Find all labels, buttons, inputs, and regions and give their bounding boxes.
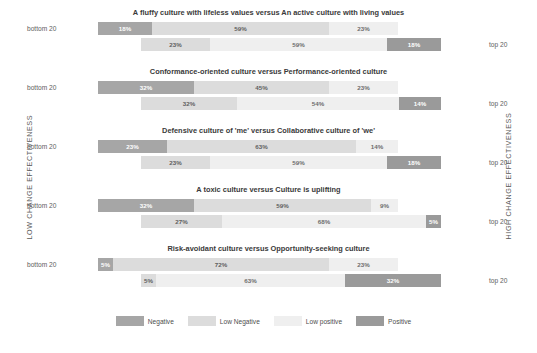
group-bars: 32%45%23%32%54%14% <box>63 81 476 113</box>
legend-item: Negative <box>116 316 174 326</box>
bar-row: 32%59%9% <box>63 199 476 212</box>
legend-label: Negative <box>148 318 174 325</box>
bottom-group-label: bottom 20 <box>27 261 56 268</box>
bottom-group-label: bottom 20 <box>27 202 56 209</box>
bar-row: 5%72%23% <box>63 258 476 271</box>
bar-row: 32%54%14% <box>63 97 476 110</box>
bar-segment: 18% <box>98 22 152 35</box>
bar-segment-label: 59% <box>292 41 304 48</box>
bar-segment: 9% <box>371 199 398 212</box>
legend-item: Low positive <box>274 316 342 326</box>
legend-swatch <box>188 316 216 326</box>
bar-segment: 59% <box>152 22 329 35</box>
bar-segment-label: 9% <box>380 202 389 209</box>
bar-segment: 63% <box>167 140 356 153</box>
bar-segment-label: 14% <box>414 100 426 107</box>
bar-row: 23%59%18% <box>63 38 476 51</box>
bar-segment: 32% <box>141 97 237 110</box>
bar-segment: 5% <box>98 258 113 271</box>
bar-segment: 32% <box>98 199 194 212</box>
bottom-group-label: bottom 20 <box>27 84 56 91</box>
legend-label: Positive <box>388 318 411 325</box>
group-title: A fluffy culture with lifeless values ve… <box>0 8 537 17</box>
bar-segment-label: 68% <box>318 218 330 225</box>
bar-segment: 72% <box>113 258 329 271</box>
bar-segment: 32% <box>345 274 441 287</box>
bar-segment: 59% <box>210 156 387 169</box>
bar-segment-label: 23% <box>169 41 181 48</box>
bar-segment-label: 18% <box>408 41 420 48</box>
bottom-group-label: bottom 20 <box>27 25 56 32</box>
bar-segment: 45% <box>194 81 329 94</box>
chart-legend: NegativeLow NegativeLow positivePositive <box>0 316 537 326</box>
bar-segment: 14% <box>356 140 398 153</box>
top-group-label: top 20 <box>489 159 507 166</box>
group-bars: 23%63%14%23%59%18% <box>63 140 476 172</box>
chart-groups: A fluffy culture with lifeless values ve… <box>0 8 537 303</box>
bar-segment-label: 63% <box>244 277 256 284</box>
group-bars: 18%59%23%23%59%18% <box>63 22 476 54</box>
bar-segment: 23% <box>141 156 210 169</box>
bar-segment-label: 23% <box>357 25 369 32</box>
bar-segment: 23% <box>98 140 167 153</box>
bar-segment: 23% <box>141 38 210 51</box>
bar-segment-label: 45% <box>255 84 267 91</box>
legend-swatch <box>356 316 384 326</box>
bar-segment-label: 32% <box>387 277 399 284</box>
group-bars: 32%59%9%27%68%5% <box>63 199 476 231</box>
chart-group: Conformance-oriented culture versus Perf… <box>0 67 537 126</box>
bar-segment-label: 5% <box>101 261 110 268</box>
group-title: Risk-avoidant culture versus Opportunity… <box>0 244 537 253</box>
bar-row: 18%59%23% <box>63 22 476 35</box>
bottom-group-label: bottom 20 <box>27 143 56 150</box>
bar-row: 23%59%18% <box>63 156 476 169</box>
bar-segment-label: 32% <box>140 84 152 91</box>
top-group-label: top 20 <box>489 277 507 284</box>
bar-segment: 23% <box>329 258 398 271</box>
bar-row: 23%63%14% <box>63 140 476 153</box>
bar-segment: 63% <box>156 274 345 287</box>
chart-group: Risk-avoidant culture versus Opportunity… <box>0 244 537 303</box>
bar-segment: 27% <box>141 215 222 228</box>
legend-label: Low Negative <box>220 318 260 325</box>
legend-item: Low Negative <box>188 316 260 326</box>
top-group-label: top 20 <box>489 218 507 225</box>
bar-segment-label: 72% <box>215 261 227 268</box>
bar-segment-label: 23% <box>169 159 181 166</box>
bar-segment-label: 54% <box>312 100 324 107</box>
bar-segment: 18% <box>387 38 441 51</box>
group-bars: 5%72%23%5%63%32% <box>63 258 476 290</box>
chart-group: Defensive culture of 'me' versus Collabo… <box>0 126 537 185</box>
bar-segment: 59% <box>194 199 371 212</box>
bar-segment-label: 18% <box>119 25 131 32</box>
bar-segment: 23% <box>329 22 398 35</box>
bar-segment-label: 23% <box>126 143 138 150</box>
bar-segment-label: 5% <box>144 277 153 284</box>
bar-segment: 14% <box>399 97 441 110</box>
legend-label: Low positive <box>306 318 342 325</box>
legend-swatch <box>116 316 144 326</box>
bar-segment-label: 5% <box>429 218 438 225</box>
bar-segment: 68% <box>222 215 426 228</box>
group-title: Conformance-oriented culture versus Perf… <box>0 67 537 76</box>
legend-item: Positive <box>356 316 411 326</box>
bar-row: 27%68%5% <box>63 215 476 228</box>
top-group-label: top 20 <box>489 41 507 48</box>
bar-segment: 5% <box>141 274 156 287</box>
chart-root: LOW CHANGE EFFECTIVENESS HIGH CHANGE EFF… <box>0 0 537 353</box>
bar-segment: 54% <box>237 97 399 110</box>
bar-segment: 23% <box>329 81 398 94</box>
group-title: Defensive culture of 'me' versus Collabo… <box>0 126 537 135</box>
bar-segment-label: 59% <box>234 25 246 32</box>
bar-row: 5%63%32% <box>63 274 476 287</box>
bar-segment-label: 23% <box>357 261 369 268</box>
bar-segment-label: 32% <box>183 100 195 107</box>
bar-row: 32%45%23% <box>63 81 476 94</box>
chart-group: A toxic culture versus Culture is uplift… <box>0 185 537 244</box>
chart-group: A fluffy culture with lifeless values ve… <box>0 8 537 67</box>
bar-segment-label: 23% <box>357 84 369 91</box>
bar-segment: 18% <box>387 156 441 169</box>
top-group-label: top 20 <box>489 100 507 107</box>
group-title: A toxic culture versus Culture is uplift… <box>0 185 537 194</box>
bar-segment-label: 59% <box>276 202 288 209</box>
